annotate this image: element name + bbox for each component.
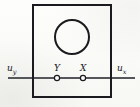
label-terminal-y: Y [54,64,60,73]
diagram-svg [0,0,140,107]
label-terminal-x: X [80,64,86,73]
rectangular-enclosure [33,5,111,97]
label-ux-subscript: x [123,68,127,76]
label-input-uy: uy [7,64,16,75]
circle-element [55,20,89,54]
terminal-y-node [54,75,59,80]
figure-canvas: uy ux Y X [0,0,140,107]
label-uy-subscript: y [13,68,17,76]
label-input-ux: ux [117,64,126,75]
terminal-x-node [80,75,85,80]
